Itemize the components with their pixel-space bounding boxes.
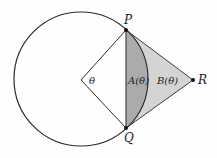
point-p [124,28,128,32]
radius-op [81,30,126,80]
label-p: P [123,13,133,27]
point-q [124,126,128,130]
point-r [191,78,195,82]
label-a-theta: A(θ) [127,75,149,86]
label-theta: θ [89,75,95,86]
diagram-canvas: P Q R θ A(θ) B(θ) [0,0,217,158]
label-q: Q [124,131,134,145]
label-b-theta: B(θ) [156,75,178,86]
radius-oq [81,80,126,128]
label-r: R [197,73,207,87]
geometry-diagram: P Q R θ A(θ) B(θ) [0,0,217,158]
